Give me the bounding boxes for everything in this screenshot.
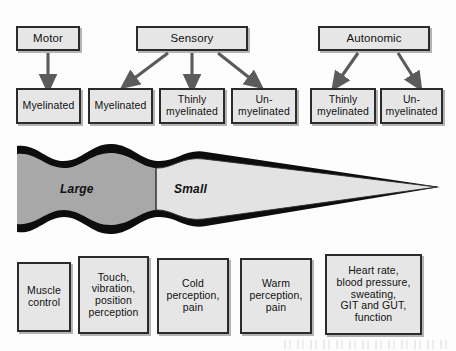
arrow-sensory-to-myelinated: [128, 53, 168, 83]
box-sensory-myelinated: Myelinated: [88, 88, 153, 124]
box-autonomic: Autonomic: [318, 26, 430, 51]
arrow-autonomic-to-unmyelinated: [398, 53, 417, 83]
wedge-label-large: Large: [60, 182, 94, 196]
box-muscle-control: Muscle control: [17, 262, 71, 332]
box-touch-vibration: Touch, vibration, position perception: [78, 256, 149, 334]
box-cold-perception: Cold perception, pain: [157, 258, 229, 334]
box-sensory-unmyelinated: Un- myelinated: [231, 88, 297, 124]
arrow-sensory-to-unmyelinated: [218, 53, 256, 83]
box-sensory-thinly-myelinated: Thinly myelinated: [159, 88, 225, 124]
nerve-fiber-diagram: Motor Sensory Autonomic Myelinated Myeli…: [0, 0, 456, 351]
box-autonomic-functions: Heart rate, blood pressure, sweating, GI…: [325, 254, 422, 335]
box-motor: Motor: [16, 26, 80, 51]
scan-artifact: [284, 340, 452, 349]
box-autonomic-thinly-myelinated: Thinly myelinated: [310, 88, 376, 124]
box-sensory: Sensory: [136, 26, 248, 51]
box-motor-myelinated: Myelinated: [16, 88, 81, 124]
arrow-autonomic-to-thinly: [337, 53, 358, 83]
box-autonomic-unmyelinated: Un- myelinated: [380, 88, 443, 124]
box-warm-perception: Warm perception, pain: [240, 258, 312, 334]
wedge-label-small: Small: [174, 182, 207, 196]
